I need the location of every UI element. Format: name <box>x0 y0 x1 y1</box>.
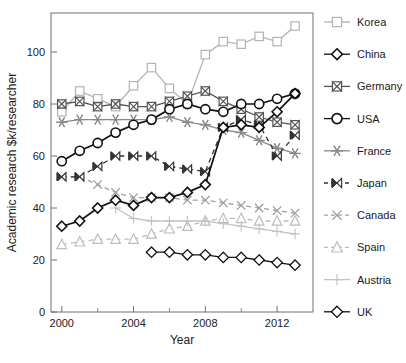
data-point-marker <box>74 115 85 125</box>
data-point-marker <box>129 102 137 110</box>
legend-item-korea[interactable]: Korea <box>324 16 387 28</box>
legend-item-canada[interactable]: Canada <box>324 209 396 221</box>
x-tick-label: 2012 <box>265 317 289 329</box>
data-point-marker <box>57 157 66 166</box>
y-tick-label: 40 <box>33 202 45 214</box>
data-point-marker <box>93 180 101 188</box>
series-austria <box>110 203 300 239</box>
legend-item-germany[interactable]: Germany <box>324 80 403 92</box>
data-point-marker <box>164 247 174 257</box>
data-point-marker <box>236 252 246 262</box>
data-point-marker <box>129 82 137 90</box>
legend-label: Germany <box>357 80 403 92</box>
legend-item-china[interactable]: China <box>324 48 387 60</box>
data-point-marker <box>147 115 156 124</box>
data-point-marker <box>200 120 211 130</box>
data-point-marker <box>332 17 341 26</box>
data-point-marker <box>237 99 246 108</box>
data-point-marker <box>290 131 299 139</box>
legend-item-uk[interactable]: UK <box>324 306 373 318</box>
data-point-marker <box>93 138 102 147</box>
data-point-marker <box>129 120 138 129</box>
data-point-marker <box>289 149 300 159</box>
legend-item-france[interactable]: France <box>324 145 391 157</box>
data-point-marker <box>201 87 209 95</box>
data-point-marker <box>218 252 228 262</box>
data-point-marker <box>331 306 342 317</box>
data-point-marker <box>57 221 67 231</box>
data-point-marker <box>272 226 282 236</box>
data-point-marker <box>92 115 103 125</box>
series-spain <box>57 213 300 248</box>
data-point-marker <box>57 173 66 181</box>
x-axis-title: Year <box>170 333 194 347</box>
legend-label: Canada <box>357 209 396 221</box>
data-point-marker <box>255 113 263 121</box>
data-point-marker <box>93 102 101 110</box>
y-tick-label: 0 <box>39 306 45 318</box>
data-point-marker <box>254 255 264 265</box>
data-point-marker <box>183 99 192 108</box>
data-point-marker <box>146 216 156 226</box>
legend-label: UK <box>357 306 373 318</box>
data-point-marker <box>219 37 227 45</box>
data-point-marker <box>58 100 66 108</box>
data-point-marker <box>164 216 174 226</box>
data-point-marker <box>147 152 156 160</box>
legend-label: China <box>357 48 387 60</box>
data-point-marker <box>93 95 101 103</box>
chart-figure: 0204060801002000200420082012YearAcademic… <box>0 0 406 363</box>
data-point-marker <box>332 82 341 91</box>
data-point-marker <box>58 108 66 116</box>
data-point-marker <box>147 102 155 110</box>
data-point-marker <box>76 87 84 95</box>
legend-item-usa[interactable]: USA <box>324 113 380 125</box>
legend-item-japan[interactable]: Japan <box>324 177 387 189</box>
x-tick-label: 2008 <box>193 317 217 329</box>
data-point-marker <box>129 152 138 160</box>
data-point-marker <box>165 162 174 170</box>
y-tick-label: 80 <box>33 98 45 110</box>
data-point-marker <box>75 173 84 181</box>
legend-item-austria[interactable]: Austria <box>324 274 392 286</box>
y-tick-label: 20 <box>33 254 45 266</box>
data-point-marker <box>332 114 342 124</box>
data-point-marker <box>183 165 192 173</box>
data-point-marker <box>146 247 156 257</box>
data-point-marker <box>56 117 67 127</box>
data-point-marker <box>75 146 84 155</box>
data-point-marker <box>200 180 210 190</box>
data-point-marker <box>332 49 343 60</box>
legend-item-spain[interactable]: Spain <box>324 241 385 253</box>
x-tick-label: 2000 <box>50 317 74 329</box>
data-point-marker <box>111 128 120 137</box>
legend-label: Japan <box>357 177 387 189</box>
data-point-marker <box>290 229 300 239</box>
data-point-marker <box>272 216 282 225</box>
data-point-marker <box>165 105 174 114</box>
y-tick-label: 100 <box>27 46 45 58</box>
y-axis-title: Academic research $k/researcher <box>5 73 19 252</box>
data-point-marker <box>332 178 342 187</box>
data-point-marker <box>110 115 121 125</box>
legend-label: Korea <box>357 16 387 28</box>
data-point-marker <box>165 84 173 92</box>
data-point-marker <box>237 40 245 48</box>
data-point-marker <box>255 99 264 108</box>
data-point-marker <box>93 162 102 170</box>
data-point-marker <box>254 136 265 146</box>
data-point-marker <box>219 107 228 116</box>
data-point-marker <box>273 94 282 103</box>
legend-label: Austria <box>357 274 392 286</box>
data-point-marker <box>331 146 343 156</box>
data-point-marker <box>182 117 193 127</box>
data-point-marker <box>182 216 192 226</box>
data-point-marker <box>291 22 299 30</box>
data-point-marker <box>331 274 342 285</box>
data-point-marker <box>76 97 84 105</box>
data-point-marker <box>272 152 281 160</box>
legend-label: USA <box>357 113 380 125</box>
legend-label: Spain <box>357 241 385 253</box>
legend-label: France <box>357 145 391 157</box>
data-point-marker <box>182 250 192 260</box>
